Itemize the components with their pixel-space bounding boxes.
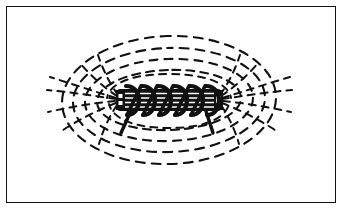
field-ray-left-2 <box>47 90 116 99</box>
left-terminal <box>116 90 125 110</box>
figure-root: Magnetic field of a current-carrying sol… <box>0 0 343 209</box>
field-ray-right-2 <box>222 90 292 99</box>
field-ray-right-3 <box>223 101 291 112</box>
field-ray-left-3 <box>48 101 115 112</box>
right-pole-field-lines <box>220 55 292 144</box>
solenoid-field-diagram <box>0 0 343 209</box>
